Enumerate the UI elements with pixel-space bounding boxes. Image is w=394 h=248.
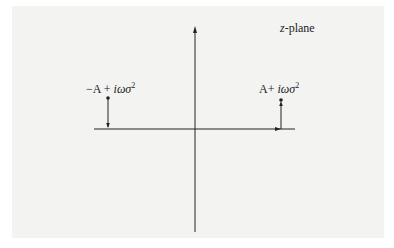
left-pole-label: −A + iωσ2: [86, 81, 135, 97]
right-label-exp: 2: [295, 81, 299, 90]
right-label-imag: iωσ: [277, 82, 295, 96]
right-label-real: A+: [259, 82, 277, 96]
plane-suffix: -plane: [285, 21, 315, 35]
left-pole-arrow-icon: [106, 123, 110, 128]
left-label-imag: iωσ: [114, 82, 132, 96]
plane-label: z-plane: [280, 21, 315, 36]
right-pole-label: A+ iωσ2: [259, 81, 299, 97]
real-axis-arrow-icon: [275, 127, 281, 131]
z-plane-diagram: [0, 0, 394, 248]
left-label-exp: 2: [131, 81, 135, 90]
imaginary-axis-arrow-icon: [193, 26, 197, 33]
left-label-real: −A +: [86, 82, 114, 96]
